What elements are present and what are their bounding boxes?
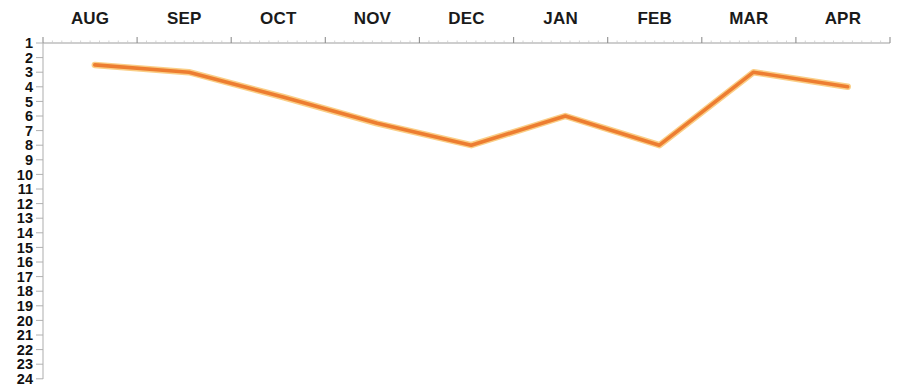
y-axis-label-2: 2 [25, 50, 33, 66]
x-axis [43, 37, 890, 43]
y-axis-label-19: 19 [17, 298, 33, 314]
y-axis-label-10: 10 [17, 167, 33, 183]
rank-line-chart: AUGSEPOCTNOVDECJANFEBMARAPR 123456789101… [0, 0, 902, 390]
y-axis-label-20: 20 [17, 313, 33, 329]
y-axis-label-11: 11 [18, 181, 33, 197]
y-axis-label-4: 4 [25, 79, 33, 95]
y-axis-label-14: 14 [17, 225, 33, 241]
x-axis-ticks [43, 37, 890, 43]
y-axis-label-9: 9 [25, 152, 33, 168]
y-axis-label-18: 18 [17, 283, 33, 299]
x-axis-label-dec: DEC [448, 9, 485, 28]
y-axis-label-21: 21 [17, 327, 33, 343]
x-axis-label-feb: FEB [637, 9, 672, 28]
x-axis-month-labels: AUGSEPOCTNOVDECJANFEBMARAPR [71, 9, 861, 28]
x-axis-label-mar: MAR [729, 9, 768, 28]
y-axis: 123456789101112131415161718192021222324 [17, 35, 43, 387]
chart-canvas: AUGSEPOCTNOVDECJANFEBMARAPR 123456789101… [0, 0, 902, 390]
y-axis-label-5: 5 [25, 94, 33, 110]
x-axis-label-nov: NOV [354, 9, 392, 28]
x-axis-label-jan: JAN [543, 9, 578, 28]
series-line-rank [95, 65, 848, 145]
y-axis-label-15: 15 [17, 240, 33, 256]
y-axis-label-23: 23 [17, 356, 33, 372]
data-series-group [95, 65, 848, 145]
y-axis-ticks [36, 43, 43, 379]
y-axis-label-3: 3 [25, 64, 33, 80]
x-axis-label-apr: APR [825, 9, 862, 28]
y-axis-label-17: 17 [17, 269, 33, 285]
y-axis-label-12: 12 [17, 196, 33, 212]
y-axis-tick-labels: 123456789101112131415161718192021222324 [17, 35, 33, 387]
y-axis-label-13: 13 [17, 210, 33, 226]
y-axis-label-7: 7 [25, 123, 33, 139]
y-axis-label-1: 1 [25, 35, 33, 51]
y-axis-label-22: 22 [17, 342, 33, 358]
x-axis-label-oct: OCT [260, 9, 297, 28]
y-axis-label-6: 6 [25, 108, 33, 124]
x-axis-label-sep: SEP [167, 9, 202, 28]
x-axis-label-aug: AUG [71, 9, 109, 28]
y-axis-label-24: 24 [17, 371, 33, 387]
y-axis-label-8: 8 [25, 137, 33, 153]
y-axis-label-16: 16 [17, 254, 33, 270]
